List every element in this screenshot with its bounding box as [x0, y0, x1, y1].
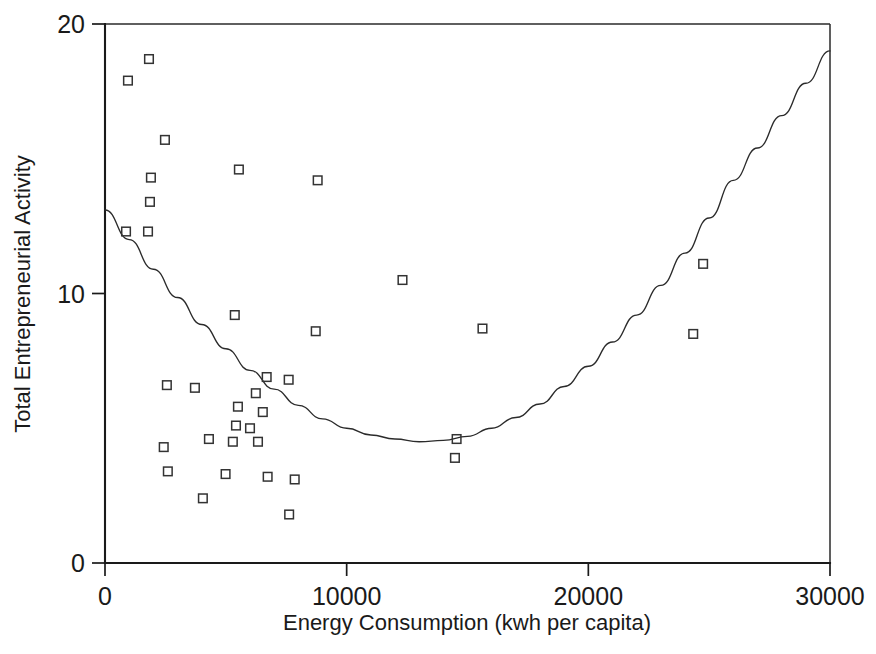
data-point-marker: [290, 475, 299, 484]
y-axis-tick-label: 10: [57, 280, 85, 308]
axes: [105, 24, 830, 563]
data-point-marker: [191, 384, 200, 393]
data-point-marker: [311, 327, 320, 336]
data-point-marker: [232, 421, 241, 430]
data-point-marker: [246, 424, 255, 433]
data-point-marker: [263, 472, 272, 481]
fitted-curve: [105, 51, 830, 442]
data-point-marker: [451, 454, 460, 463]
data-point-marker: [147, 173, 156, 182]
data-point-marker: [146, 198, 155, 207]
data-point-marker: [313, 176, 322, 185]
chart-canvas: 01020 0100002000030000 Energy Consumptio…: [0, 0, 876, 654]
plot-frame: [105, 24, 830, 563]
data-point-marker: [262, 373, 271, 382]
data-point-marker: [205, 435, 214, 444]
y-axis-label: Total Entrepreneurial Activity: [10, 155, 35, 433]
data-point-marker: [478, 324, 487, 333]
data-point-marker: [145, 55, 154, 64]
data-point-marker: [159, 443, 168, 452]
x-axis-label: Energy Consumption (kwh per capita): [283, 610, 651, 635]
data-point-marker: [221, 470, 230, 479]
data-point-marker: [254, 437, 263, 446]
data-point-marker: [235, 165, 244, 174]
data-point-marker: [122, 227, 131, 236]
data-point-marker: [689, 330, 698, 339]
data-point-marker: [284, 375, 293, 384]
data-point-marker: [259, 408, 268, 417]
data-point-marker: [230, 311, 239, 320]
y-axis-tick-label: 0: [71, 549, 85, 577]
data-point-marker: [163, 381, 172, 390]
data-point-marker: [199, 494, 208, 503]
data-point-marker: [161, 136, 170, 145]
data-point-marker: [234, 402, 243, 411]
scatter-plot-figure: 01020 0100002000030000 Energy Consumptio…: [0, 0, 876, 654]
data-point-marker: [398, 276, 407, 285]
data-point-marker: [285, 510, 294, 519]
scatter-markers-group: [122, 55, 708, 519]
data-point-marker: [144, 227, 153, 236]
x-axis-tick-label: 20000: [554, 582, 624, 610]
data-point-marker: [164, 467, 173, 476]
y-axis-tick-label: 20: [57, 10, 85, 38]
x-axis-tick-label: 10000: [312, 582, 382, 610]
data-point-marker: [699, 260, 708, 269]
x-axis-tick-label: 30000: [795, 582, 865, 610]
y-axis-ticks: 01020: [57, 10, 105, 577]
data-point-marker: [229, 437, 238, 446]
data-point-marker: [252, 389, 261, 398]
data-point-marker: [124, 76, 133, 85]
x-axis-ticks: 0100002000030000: [98, 563, 865, 610]
x-axis-tick-label: 0: [98, 582, 112, 610]
